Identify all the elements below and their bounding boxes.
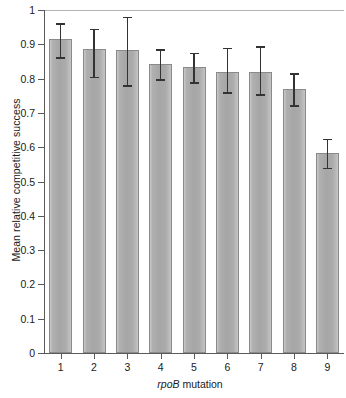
y-tick-label-0.2: 0.2 [1,279,35,290]
error-bar-cap-lower-8 [290,105,299,107]
error-bar-cap-upper-6 [223,48,232,50]
y-tick-label-0.4: 0.4 [1,211,35,222]
error-bar-cap-lower-5 [190,82,199,84]
error-bar-line-3 [127,17,129,86]
error-bar-cap-upper-9 [323,139,332,141]
y-axis-line [44,10,45,354]
x-tick-5 [194,353,195,359]
error-bar-cap-upper-2 [90,29,99,31]
error-bar-cap-lower-7 [256,94,265,96]
x-tick-label-9: 9 [315,362,339,373]
y-tick-0.3 [38,250,44,251]
x-axis-title-plain: mutation [179,378,222,390]
error-bar-cap-upper-8 [290,73,299,75]
x-tick-label-7: 7 [249,362,273,373]
x-tick-3 [127,353,128,359]
y-tick-0.7 [38,113,44,114]
y-tick-label-0.9: 0.9 [1,39,35,50]
y-tick-0.5 [38,182,44,183]
x-tick-label-1: 1 [49,362,73,373]
x-tick-label-6: 6 [215,362,239,373]
x-tick-7 [261,353,262,359]
bar-4 [149,64,172,353]
x-axis-title: rpoB mutation [40,378,340,390]
x-tick-label-2: 2 [82,362,106,373]
error-bar-cap-lower-4 [156,79,165,81]
bar-8 [283,89,306,353]
y-tick-label-0.6: 0.6 [1,142,35,153]
bar-6 [216,72,239,353]
y-tick-0.1 [38,319,44,320]
y-tick-0.8 [38,79,44,80]
plot-top-rule [44,10,344,11]
bar-chart-figure: Mean relative competitive success rpoB m… [0,0,346,398]
y-tick-0 [38,353,44,354]
y-tick-label-0.5: 0.5 [1,177,35,188]
error-bar-line-7 [260,46,262,94]
bar-9 [316,153,339,353]
x-axis-title-italic: rpoB [157,378,179,390]
bar-5 [183,67,206,353]
y-tick-0.2 [38,284,44,285]
error-bar-line-8 [293,73,295,105]
y-tick-0.9 [38,44,44,45]
error-bar-line-6 [227,48,229,93]
error-bar-line-4 [160,49,162,79]
bar-3 [116,50,139,353]
y-tick-label-0.1: 0.1 [1,314,35,325]
bar-2 [83,49,106,353]
bar-1 [49,39,72,353]
y-tick-label-0.8: 0.8 [1,74,35,85]
y-tick-1 [38,10,44,11]
x-tick-9 [327,353,328,359]
y-tick-0.4 [38,216,44,217]
error-bar-line-9 [327,139,329,168]
error-bar-cap-upper-4 [156,49,165,51]
error-bar-cap-upper-1 [56,23,65,25]
x-tick-label-8: 8 [282,362,306,373]
x-tick-8 [294,353,295,359]
bar-7 [249,72,272,353]
error-bar-cap-upper-3 [123,17,132,19]
x-tick-1 [61,353,62,359]
error-bar-cap-lower-3 [123,85,132,87]
x-tick-4 [161,353,162,359]
error-bar-cap-lower-1 [56,57,65,59]
x-tick-2 [94,353,95,359]
y-tick-label-0: 0 [1,348,35,359]
x-tick-label-4: 4 [149,362,173,373]
x-tick-label-5: 5 [182,362,206,373]
error-bar-cap-upper-5 [190,53,199,55]
y-tick-label-0.3: 0.3 [1,245,35,256]
error-bar-cap-upper-7 [256,46,265,48]
y-tick-label-1: 1 [1,5,35,16]
error-bar-line-1 [60,23,62,57]
error-bar-cap-lower-6 [223,92,232,94]
y-tick-label-0.7: 0.7 [1,108,35,119]
error-bar-line-2 [93,29,95,77]
x-tick-6 [227,353,228,359]
x-tick-label-3: 3 [115,362,139,373]
error-bar-cap-lower-2 [90,77,99,79]
error-bar-cap-lower-9 [323,168,332,170]
error-bar-line-5 [193,53,195,82]
y-tick-0.6 [38,147,44,148]
